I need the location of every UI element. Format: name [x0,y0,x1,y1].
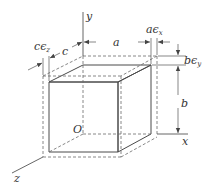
z-axis-label: z [13,172,20,185]
side-face [118,65,151,152]
x-axis-label: x [182,135,189,148]
solid-block [49,65,151,152]
a-strain-label: aϵx [146,23,163,37]
c-strain-label: cϵz [34,40,50,54]
dimension-c: c cϵz [28,40,82,81]
y-axis-label: y [85,10,93,23]
origin-label: O [73,123,82,136]
b-strain-label: bϵy [184,54,202,68]
z-axis [12,157,43,173]
b-label: b [181,97,188,110]
strain-cube-diagram: y x z O a aϵx b bϵy c cϵz [0,0,214,188]
a-label: a [113,36,120,49]
hidden-edges [49,65,151,152]
front-face [49,82,118,152]
dimension-b: b bϵy [152,44,202,133]
c-label: c [62,45,68,58]
top-face [49,65,151,82]
